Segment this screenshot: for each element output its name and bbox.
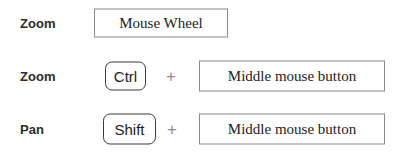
keycap-ctrl: Ctrl — [105, 61, 146, 90]
shortcut-row-zoom-ctrl-mmb: Zoom Ctrl + Middle mouse button — [0, 57, 397, 94]
plus-separator-icon-row3: + — [163, 121, 181, 138]
shortcut-row-pan-shift-mmb: Pan Shift + Middle mouse button — [0, 110, 397, 148]
action-label-zoom-wheel: Zoom — [20, 16, 56, 31]
input-box-middle-mouse-button-row2: Middle mouse button — [199, 60, 385, 91]
plus-separator-icon-row2: + — [162, 67, 180, 84]
keycap-shift: Shift — [103, 114, 156, 145]
shortcut-row-zoom-wheel: Zoom Mouse Wheel — [0, 6, 397, 40]
input-box-mouse-wheel: Mouse Wheel — [94, 9, 228, 38]
action-label-pan: Pan — [20, 122, 44, 137]
shortcut-legend: Zoom Mouse Wheel Zoom Ctrl + Middle mous… — [0, 0, 397, 154]
action-label-zoom-ctrl: Zoom — [20, 68, 56, 83]
input-box-middle-mouse-button-row3: Middle mouse button — [199, 114, 385, 145]
